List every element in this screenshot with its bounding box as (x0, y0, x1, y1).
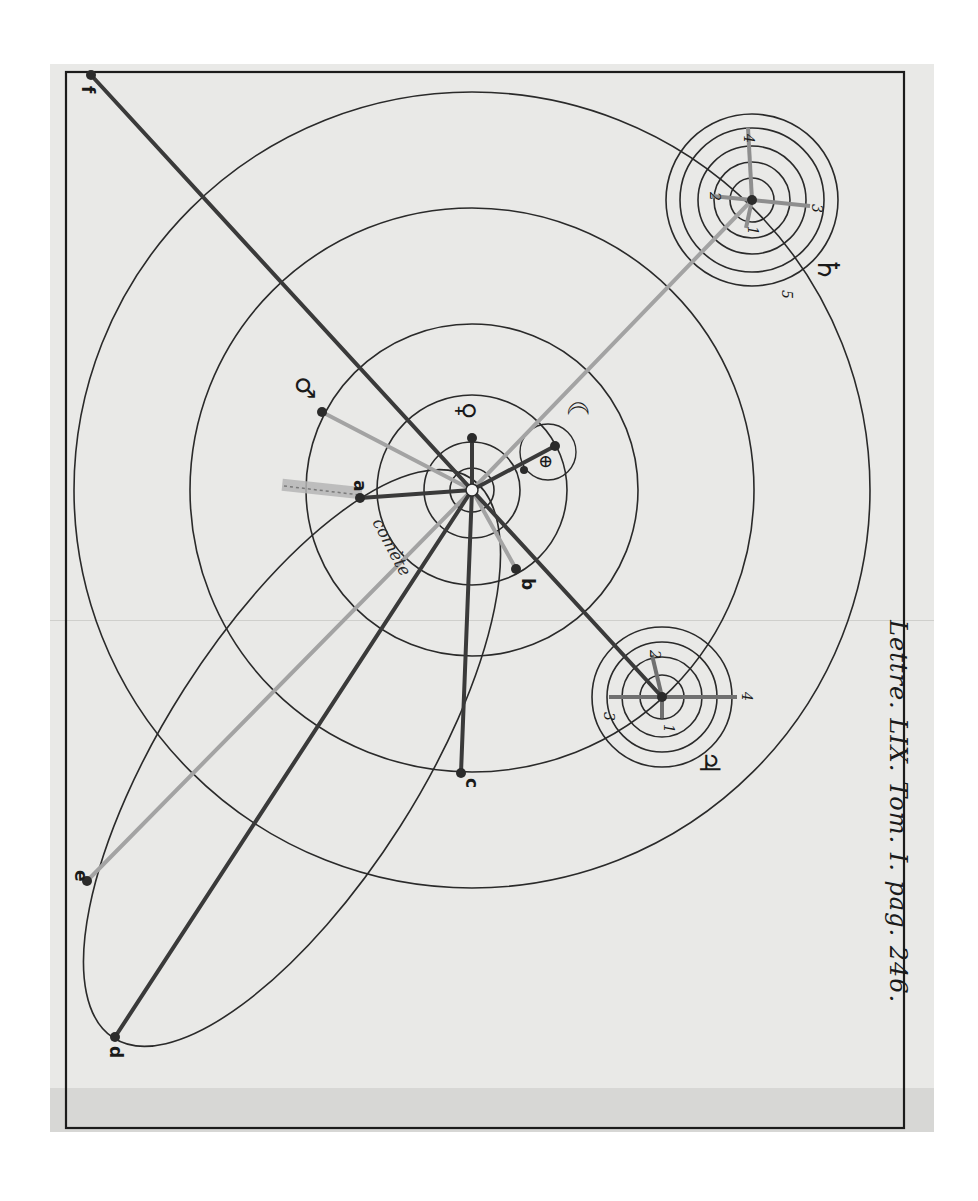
saturn-sat-1: 1 (745, 226, 761, 235)
label-b: b (518, 578, 538, 590)
earth-point (550, 441, 560, 451)
moon-symbol: ☾ (561, 400, 594, 425)
label-f: f (78, 86, 98, 94)
label-a: a (350, 480, 370, 491)
saturn-sat-2: 2 (707, 191, 723, 201)
plate-caption: Lettre. LIX. Tom. I. pag. 246. (884, 620, 912, 1003)
line-sun-c (461, 490, 472, 773)
line-sun-mars (322, 412, 472, 490)
label-d: d (106, 1046, 126, 1058)
line-sun-d (115, 490, 472, 1037)
saturn-sat-3: 3 (809, 204, 825, 213)
saturn-sat-4: 4 (741, 133, 757, 143)
saturn-sat-5: 5 (779, 290, 795, 299)
jupiter-sat-4: 4 (739, 691, 755, 701)
jupiter-point (657, 692, 667, 702)
jupiter-symbol: ♃ (693, 750, 726, 775)
solar-system-plate: a b c d e f ♀ ⊕ ☾ ♂ ♃ ♄ 4 2 3 1 5 4 2 3 … (0, 0, 978, 1201)
comet-point-c (456, 768, 466, 778)
label-e: e (71, 870, 91, 882)
line-f-jupiter (91, 75, 662, 697)
jupiter-satellite-arms (609, 655, 737, 718)
comet-point-b (511, 564, 521, 574)
satellite-numbers: 4 2 3 1 5 4 2 3 1 (601, 133, 825, 733)
mercury-point (520, 466, 528, 474)
dark-sight-lines (91, 75, 662, 1037)
mars-point (317, 407, 327, 417)
jupiter-sat-1: 1 (661, 724, 677, 733)
label-c: c (462, 778, 482, 788)
light-sight-lines (87, 200, 752, 881)
jupiter-sat-2: 2 (647, 649, 663, 659)
comet-point-d (110, 1032, 120, 1042)
line-sun-e (87, 490, 472, 881)
venus-point (467, 433, 477, 443)
sun-marker (466, 484, 478, 496)
jupiter-sat-3: 3 (601, 712, 617, 721)
mars-symbol: ♂ (290, 376, 320, 399)
comet-point-a (355, 493, 365, 503)
planet-symbols: ♀ ⊕ ☾ ♂ ♃ ♄ (290, 256, 846, 775)
saturn-symbol: ♄ (811, 256, 846, 283)
saturn-point (747, 195, 757, 205)
earth-symbol: ⊕ (536, 454, 557, 469)
plate-frame (66, 72, 904, 1128)
point-f (86, 70, 96, 80)
line-sun-saturn (472, 200, 752, 490)
venus-symbol: ♀ (452, 402, 480, 420)
